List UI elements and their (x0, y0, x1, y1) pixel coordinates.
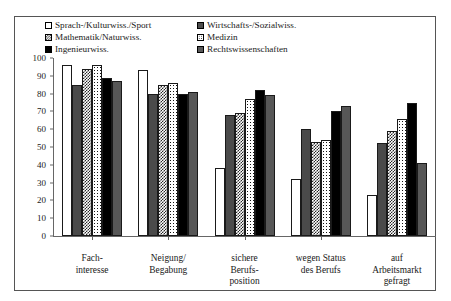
x-axis-category-label: aufArbeitsmarktgefragt (359, 253, 435, 297)
bar (215, 168, 225, 236)
legend-swatch-dark-gray-icon (197, 22, 204, 29)
x-axis-label-line: Neigung/ (130, 253, 206, 265)
y-axis-tick-mark (50, 129, 53, 130)
legend-label: Sprach-/Kulturwiss./Sport (55, 20, 151, 31)
bar-group (283, 58, 359, 236)
x-axis-label-line: auf (359, 253, 435, 265)
legend-item-mathematik-naturwiss: Mathematik/Naturwiss. (45, 31, 197, 43)
bar (407, 103, 417, 237)
y-axis-tick-mark (50, 218, 53, 219)
bar-groups (54, 58, 435, 236)
legend-label: Rechtswissenschaften (207, 44, 288, 55)
bar (331, 111, 341, 236)
legend-swatch-white-outline-icon (45, 22, 52, 29)
legend-item-ingenieurwiss: Ingenieurwiss. (45, 43, 197, 55)
x-axis-label-line: Berufs- (206, 265, 282, 277)
bar (397, 119, 407, 236)
y-axis-tick-label: 100 (33, 54, 47, 63)
bar (102, 78, 112, 236)
legend-swatch-medium-gray-icon (197, 46, 204, 53)
bar (301, 129, 311, 236)
bar (112, 81, 122, 236)
y-axis-tick-mark (50, 58, 53, 59)
y-axis-tick-label: 50 (37, 143, 46, 152)
y-axis: 1009080706050403020100 (14, 58, 50, 236)
x-axis-label-line: Arbeitsmarkt (359, 265, 435, 277)
x-axis-category-label: sichereBerufs-position (206, 253, 282, 297)
bar (377, 143, 387, 236)
chart-legend: Sprach-/Kulturwiss./Sport Wirtschafts-/S… (45, 19, 395, 55)
bar (417, 163, 427, 236)
y-axis-tick-mark (50, 182, 53, 183)
bar (235, 113, 245, 236)
x-axis-category-label: wegen Statusdes Berufs (283, 253, 359, 297)
chart-root: Sprach-/Kulturwiss./Sport Wirtschafts-/S… (0, 0, 451, 301)
bar (387, 131, 397, 236)
y-axis-tick-mark (50, 75, 53, 76)
y-axis-tick-label: 0 (42, 232, 47, 241)
y-axis-tick-label: 70 (37, 107, 46, 116)
legend-item-sprach-kulturwiss-sport: Sprach-/Kulturwiss./Sport (45, 19, 197, 31)
legend-swatch-checkered-icon (45, 34, 52, 41)
y-axis-tick-label: 30 (37, 178, 46, 187)
bar-group (130, 58, 206, 236)
bar-group (54, 58, 130, 236)
legend-swatch-dotted-icon (197, 34, 204, 41)
plot-area: 1009080706050403020100 (14, 58, 436, 253)
legend-item-wirtschafts-sozialwiss: Wirtschafts-/Sozialwiss. (197, 19, 395, 31)
bar (225, 115, 235, 236)
legend-label: Mathematik/Naturwiss. (55, 32, 142, 43)
y-axis-tick-mark (50, 147, 53, 148)
x-axis-label-line: wegen Status (283, 253, 359, 265)
y-axis-tick-label: 40 (37, 160, 46, 169)
bar-group (206, 58, 282, 236)
legend-swatch-black-icon (45, 46, 52, 53)
x-axis-label-line: interesse (54, 265, 130, 277)
bar (168, 83, 178, 236)
legend-item-medizin: Medizin (197, 31, 395, 43)
x-axis-label-line: Begabung (130, 265, 206, 277)
legend-label: Wirtschafts-/Sozialwiss. (207, 20, 296, 31)
bar (62, 65, 72, 236)
legend-item-rechtswissenschaften: Rechtswissenschaften (197, 43, 395, 55)
x-axis-label-line: sichere (206, 253, 282, 265)
bar (255, 90, 265, 236)
bar (245, 99, 255, 236)
y-axis-tick-label: 80 (37, 89, 46, 98)
y-axis-tick-label: 60 (37, 125, 46, 134)
y-axis-tick-mark (50, 111, 53, 112)
bar (321, 140, 331, 236)
x-axis-label-line: des Berufs (283, 265, 359, 277)
legend-label: Ingenieurwiss. (55, 44, 109, 55)
y-axis-tick-mark (50, 200, 53, 201)
x-axis-category-label: Fach-interesse (54, 253, 130, 297)
x-axis-label-line: position (206, 276, 282, 288)
y-axis-tick-label: 10 (37, 214, 46, 223)
bar (138, 70, 148, 236)
bar (158, 85, 168, 236)
bar (92, 65, 102, 236)
bar (311, 142, 321, 236)
bar (265, 95, 275, 236)
y-axis-tick-label: 20 (37, 196, 46, 205)
bar-group (359, 58, 435, 236)
x-axis-labels: Fach-interesseNeigung/BegabungsichereBer… (54, 253, 435, 297)
bar (148, 94, 158, 236)
legend-label: Medizin (207, 32, 238, 43)
y-axis-tick-mark (50, 236, 53, 237)
y-axis-tick-mark (50, 93, 53, 94)
x-axis-label-line: Fach- (54, 253, 130, 265)
bar (367, 195, 377, 236)
x-axis-label-line: gefragt (359, 276, 435, 288)
y-axis-tick-mark (50, 164, 53, 165)
x-axis-category-label: Neigung/Begabung (130, 253, 206, 297)
bar (178, 94, 188, 236)
y-axis-tick-label: 90 (37, 71, 46, 80)
bar (72, 85, 82, 236)
bar (188, 92, 198, 236)
bar (82, 69, 92, 236)
bar (341, 106, 351, 236)
bar (291, 179, 301, 236)
